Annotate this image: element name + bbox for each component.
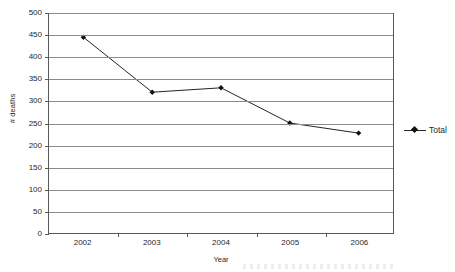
y-tick-label: 50 (33, 208, 42, 216)
gridline (49, 35, 393, 36)
y-tick-label: 150 (29, 164, 42, 172)
y-tick-mark (45, 190, 49, 191)
scan-artifact (243, 264, 393, 269)
data-point-marker (356, 130, 361, 135)
plot-area (48, 13, 394, 234)
x-tick-label: 2003 (143, 239, 161, 247)
y-tick-label: 350 (29, 75, 42, 83)
y-tick-mark (45, 35, 49, 36)
legend-swatch (404, 126, 426, 135)
y-tick-label: 0 (38, 230, 42, 238)
line-chart: # deaths 500450400350300250200150100500 … (0, 0, 455, 272)
y-tick-mark (45, 13, 49, 14)
gridline (49, 190, 393, 191)
x-tick-mark (118, 233, 119, 237)
gridline (49, 79, 393, 80)
gridline (49, 124, 393, 125)
y-tick-label: 400 (29, 53, 42, 61)
x-tick-mark (187, 233, 188, 237)
x-tick-label: 2005 (281, 239, 299, 247)
chart-legend: Total (404, 126, 447, 135)
x-axis-title: Year (48, 255, 394, 264)
y-tick-label: 100 (29, 186, 42, 194)
y-tick-label: 500 (29, 9, 42, 17)
y-tick-mark (45, 168, 49, 169)
y-tick-mark (45, 79, 49, 80)
x-tick-mark (326, 233, 327, 237)
legend-entry-label: Total (429, 126, 447, 135)
y-tick-label: 450 (29, 31, 42, 39)
y-tick-label: 250 (29, 120, 42, 128)
y-tick-mark (45, 101, 49, 102)
y-tick-mark (45, 57, 49, 58)
x-tick-label: 2002 (74, 239, 92, 247)
y-axis-tick-labels: 500450400350300250200150100500 (0, 0, 46, 272)
x-tick-label: 2004 (212, 239, 230, 247)
gridline (49, 212, 393, 213)
y-tick-mark (45, 146, 49, 147)
gridline (49, 146, 393, 147)
y-tick-label: 300 (29, 97, 42, 105)
x-tick-label: 2006 (350, 239, 368, 247)
gridline (49, 101, 393, 102)
y-tick-mark (45, 234, 49, 235)
diamond-marker-icon (411, 126, 418, 133)
y-tick-mark (45, 124, 49, 125)
x-tick-mark (257, 233, 258, 237)
x-axis-tick-labels: 20022003200420052006 (48, 239, 394, 253)
gridline (49, 168, 393, 169)
data-point-marker (218, 85, 223, 90)
y-tick-label: 200 (29, 142, 42, 150)
gridline (49, 57, 393, 58)
y-tick-mark (45, 212, 49, 213)
gridline (49, 13, 393, 14)
